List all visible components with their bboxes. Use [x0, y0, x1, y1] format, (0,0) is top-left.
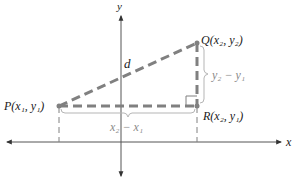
point-p: [57, 104, 62, 109]
point-r-label: R(x₂, y₁): [202, 109, 243, 123]
distance-formula-diagram: x y x₂ − x₁ y₂ − y₁ d P(x₁, y₁) Q(x₂, y₂…: [0, 0, 295, 181]
distance-d-label: d: [124, 56, 131, 71]
vertical-distance-label: y₂ − y₁: [211, 68, 245, 82]
x-axis-label: x: [285, 135, 292, 149]
point-r: [195, 104, 200, 109]
point-q-label: Q(x₂, y₂): [201, 33, 243, 47]
point-p-label: P(x₁, y₁): [3, 99, 44, 113]
horizontal-brace: [61, 109, 195, 117]
horizontal-distance-label: x₂ − x₁: [109, 120, 143, 134]
vertical-brace: [200, 46, 208, 103]
y-axis-label: y: [116, 0, 122, 12]
segment-pq-hypotenuse: [59, 43, 197, 106]
point-q: [195, 41, 200, 46]
